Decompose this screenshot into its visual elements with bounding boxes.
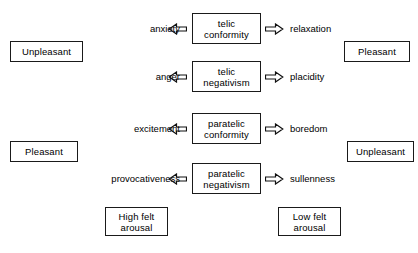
double-arrow-left-icon xyxy=(168,173,187,185)
arousal-line-2: arousal xyxy=(294,222,326,233)
corner-label-upper-left: Unpleasant xyxy=(10,41,83,62)
emotion-label-right-boredom: boredom xyxy=(290,123,328,135)
corner-label-text: Unpleasant xyxy=(356,146,405,157)
corner-label-upper-right: Pleasant xyxy=(344,41,410,62)
double-arrow-left-icon xyxy=(168,23,187,35)
corner-label-text: Unpleasant xyxy=(22,46,71,57)
double-arrow-right-icon xyxy=(265,71,284,83)
emotion-label-right-sullenness: sullenness xyxy=(290,173,335,185)
arousal-line-2: arousal xyxy=(121,222,153,233)
state-line-2: negativism xyxy=(203,179,249,190)
corner-label-lower-left: Pleasant xyxy=(10,141,78,162)
state-line-2: negativism xyxy=(203,77,249,88)
state-box-paratelic-negativism: paratelic negativism xyxy=(192,163,261,194)
state-line-2: conformity xyxy=(204,129,249,140)
emotion-label-right-relaxation: relaxation xyxy=(290,23,331,35)
double-arrow-right-icon xyxy=(265,123,284,135)
state-line-1: paratelic xyxy=(208,168,245,179)
state-line-2: conformity xyxy=(204,29,249,40)
state-line-1: paratelic xyxy=(208,118,245,129)
double-arrow-right-icon xyxy=(265,173,284,185)
corner-label-text: Pleasant xyxy=(358,46,396,57)
arousal-label-high: High felt arousal xyxy=(105,207,168,236)
state-line-1: telic xyxy=(218,66,235,77)
arousal-line-1: High felt xyxy=(119,211,155,222)
double-arrow-left-icon xyxy=(168,123,187,135)
arousal-line-1: Low felt xyxy=(293,211,327,222)
double-arrow-right-icon xyxy=(265,23,284,35)
state-box-paratelic-conformity: paratelic conformity xyxy=(192,113,261,144)
emotion-label-right-placidity: placidity xyxy=(290,71,324,83)
state-line-1: telic xyxy=(218,18,235,29)
reversal-theory-diagram: anxiety telic conformity relaxation ange… xyxy=(0,0,418,253)
corner-label-text: Pleasant xyxy=(25,146,63,157)
arousal-label-low: Low felt arousal xyxy=(278,207,341,236)
state-box-telic-negativism: telic negativism xyxy=(192,61,261,92)
double-arrow-left-icon xyxy=(168,71,187,83)
corner-label-lower-right: Unpleasant xyxy=(347,141,414,162)
state-box-telic-conformity: telic conformity xyxy=(192,13,261,44)
